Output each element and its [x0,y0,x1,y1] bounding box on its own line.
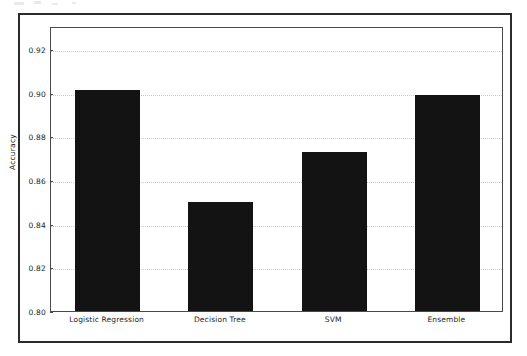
y-axis-tick-mark [50,312,53,313]
y-axis-tick-label: 0.86 [29,176,47,185]
bar [75,90,140,311]
x-axis-category-label: SVM [325,315,342,324]
bar [415,95,480,311]
y-axis-tick-mark [50,181,53,182]
bar [188,202,253,311]
y-axis-tick-labels: 0.800.820.840.860.880.900.92 [0,27,46,312]
gridline [51,51,502,52]
y-axis-tick-mark [50,225,53,226]
bar-chart-figure: Accuracy 0.800.820.840.860.880.900.92 Lo… [0,0,527,356]
x-axis-category-labels: Logistic RegressionDecision TreeSVMEnsem… [50,315,503,331]
x-axis-category-label: Ensemble [427,315,465,324]
bar [302,152,367,311]
y-axis-tick-label: 0.80 [29,308,47,317]
y-axis-tick-label: 0.90 [29,89,47,98]
y-axis-tick-mark [50,50,53,51]
y-axis-tick-label: 0.84 [29,220,47,229]
y-axis-tick-label: 0.82 [29,264,47,273]
plot-area [50,27,503,312]
y-axis-tick-mark [50,268,53,269]
y-axis-tick-mark [50,137,53,138]
x-axis-category-label: Logistic Regression [69,315,144,324]
x-axis-category-label: Decision Tree [194,315,246,324]
y-axis-tick-label: 0.92 [29,45,47,54]
y-axis-tick-mark [50,94,53,95]
y-axis-tick-label: 0.88 [29,133,47,142]
